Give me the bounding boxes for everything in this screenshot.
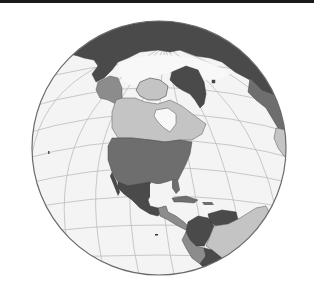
- island-dot: [48, 151, 50, 154]
- globe-svg: [0, 0, 314, 286]
- island-iceland: [212, 80, 215, 83]
- globe-map: [0, 0, 314, 286]
- island-dot: [155, 234, 158, 236]
- region-hispaniola: [202, 202, 214, 205]
